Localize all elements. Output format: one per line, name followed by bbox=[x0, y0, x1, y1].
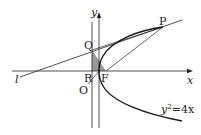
parabola-diagram: y x P Q R F O l y2=4x bbox=[0, 0, 201, 135]
label-O: O bbox=[79, 84, 88, 97]
equation-rhs: =4x bbox=[172, 103, 195, 116]
line-Q-P bbox=[92, 27, 163, 50]
x-axis-arrow-icon bbox=[187, 69, 193, 73]
label-F: F bbox=[101, 72, 109, 85]
label-P: P bbox=[159, 15, 167, 28]
label-l: l bbox=[15, 73, 19, 86]
x-axis-label: x bbox=[187, 74, 194, 87]
y-axis-arrow-icon bbox=[97, 12, 101, 18]
label-Q: Q bbox=[84, 39, 93, 52]
y-axis-label: y bbox=[90, 6, 98, 19]
curve-equation-label: y2=4x bbox=[160, 103, 195, 116]
